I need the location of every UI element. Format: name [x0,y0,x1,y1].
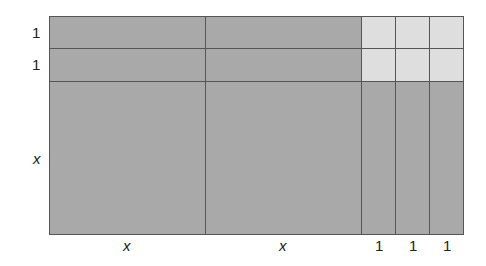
column-label: x [279,238,287,253]
row-label: x [33,151,41,166]
column-label: 1 [443,238,451,253]
unit-tile [429,16,464,49]
x-tile [429,81,464,235]
row-label: 1 [32,57,40,72]
x-tile [205,48,362,82]
column-label: 1 [375,238,383,253]
x-tile [361,81,396,235]
column-label: x [123,238,131,253]
unit-tile [361,16,396,49]
unit-tile [429,48,464,82]
x-tile [49,48,206,82]
unit-tile [395,48,430,82]
row-label: 1 [32,25,40,40]
unit-tile [395,16,430,49]
x-squared-tile [205,81,362,235]
x-squared-tile [49,81,206,235]
column-label: 1 [409,238,417,253]
x-tile [395,81,430,235]
x-tile [49,16,206,49]
unit-tile [361,48,396,82]
x-tile [205,16,362,49]
